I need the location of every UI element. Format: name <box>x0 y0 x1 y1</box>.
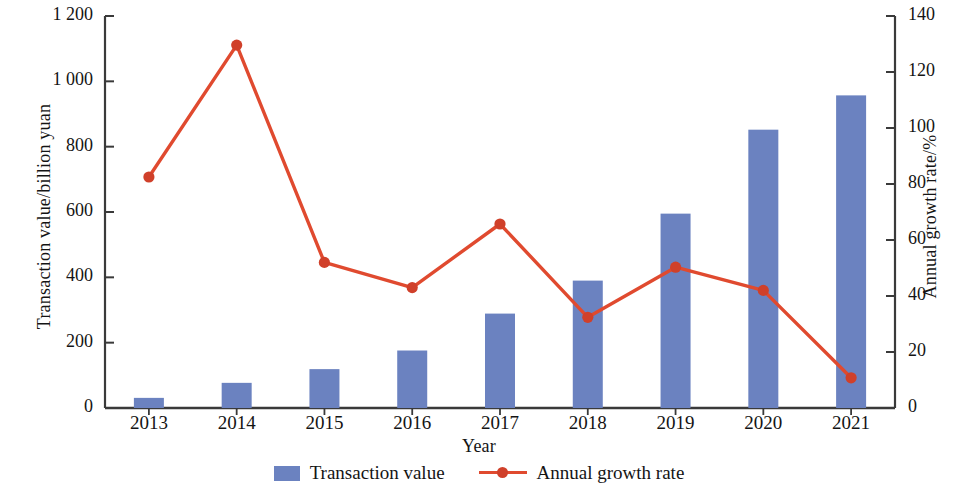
data-point-marker <box>407 282 418 293</box>
data-point-marker <box>319 257 330 268</box>
chart-legend: Transaction value Annual growth rate <box>0 462 958 484</box>
data-point-marker <box>143 171 154 182</box>
bar <box>661 214 691 408</box>
bar <box>573 281 603 408</box>
plot-area <box>0 0 958 486</box>
bar-series <box>134 95 866 408</box>
chart-container: Transaction value/billion yuan Annual gr… <box>0 0 958 486</box>
data-point-marker <box>231 40 242 51</box>
data-point-marker <box>494 218 505 229</box>
legend-label-annual-growth-rate: Annual growth rate <box>537 462 685 484</box>
bar <box>748 130 778 408</box>
data-point-marker <box>670 262 681 273</box>
data-point-marker <box>582 312 593 323</box>
bar <box>397 351 427 408</box>
legend-label-transaction-value: Transaction value <box>310 462 445 484</box>
data-point-marker <box>846 372 857 383</box>
line-marker-swatch-icon <box>479 466 527 480</box>
legend-item-transaction-value: Transaction value <box>274 462 445 484</box>
bar <box>309 369 339 408</box>
bar <box>485 314 515 408</box>
bar <box>222 383 252 408</box>
legend-item-annual-growth-rate: Annual growth rate <box>479 462 685 484</box>
bar-swatch-icon <box>274 466 300 481</box>
bar <box>134 398 164 408</box>
bar <box>836 95 866 408</box>
data-point-marker <box>758 285 769 296</box>
